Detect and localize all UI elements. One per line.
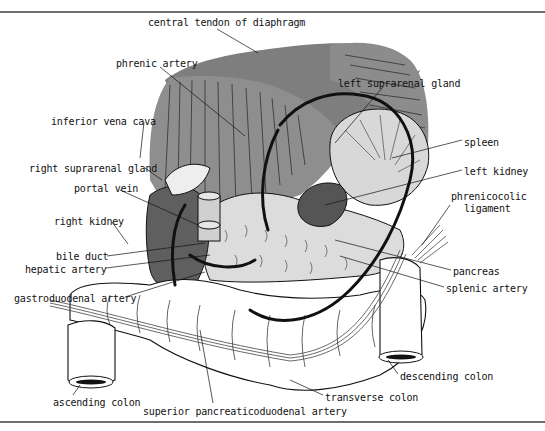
label-phrenic-artery: phrenic artery xyxy=(116,58,198,69)
label-right-kidney: right kidney xyxy=(54,216,124,227)
label-left-kidney: left kidney xyxy=(464,166,528,177)
label-superior-pancreaticoduodenal-artery: superior pancreaticoduodenal artery xyxy=(143,406,347,417)
label-pancreas: pancreas xyxy=(453,266,500,277)
label-splenic-artery: splenic artery xyxy=(446,283,528,294)
label-descending-colon: descending colon xyxy=(400,371,493,382)
label-portal-vein: portal vein xyxy=(74,183,138,194)
label-inferior-vena-cava: inferior vena cava xyxy=(51,116,156,127)
label-phrenicocolic-line1: phrenicocolic xyxy=(451,191,527,202)
portal-vein-ring xyxy=(198,221,220,229)
portal-vein xyxy=(198,196,220,241)
descending-colon xyxy=(380,258,422,361)
label-left-suprarenal-gland: left suprarenal gland xyxy=(338,78,460,89)
label-bile-duct: bile duct xyxy=(56,251,108,262)
label-central-tendon-of-diaphragm: central tendon of diaphragm xyxy=(148,17,305,28)
label-spleen: spleen xyxy=(464,137,499,148)
descending-colon-lumen xyxy=(386,355,416,360)
label-gastroduodenal-artery: gastroduodenal artery xyxy=(14,293,136,304)
ascending-colon xyxy=(68,321,115,385)
label-right-suprarenal-gland: right suprarenal gland xyxy=(29,163,157,174)
label-ascending-colon: ascending colon xyxy=(53,397,140,408)
label-hepatic-artery: hepatic artery xyxy=(25,264,107,275)
ascending-colon-lumen xyxy=(76,380,106,385)
label-phrenicocolic-line2: ligament xyxy=(464,203,511,214)
portal-vein-top xyxy=(198,192,220,200)
phrenicocolic-ligament xyxy=(412,225,448,263)
label-transverse-colon: transverse colon xyxy=(325,392,418,403)
